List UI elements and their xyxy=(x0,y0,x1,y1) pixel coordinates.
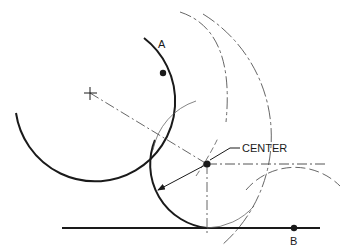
center-dot xyxy=(203,160,210,167)
tangent-construction-diagram: A B CENTER xyxy=(0,0,349,251)
construction-arc-upper xyxy=(180,12,227,122)
construction-arc-right xyxy=(246,167,340,190)
plus-marker-icon xyxy=(84,87,97,100)
point-b-dot xyxy=(291,225,297,231)
radius-arrow xyxy=(158,164,207,190)
construction-arc-large xyxy=(203,14,271,245)
center-leader-line xyxy=(210,148,240,160)
label-a: A xyxy=(158,38,166,50)
label-center: CENTER xyxy=(242,142,287,154)
label-b: B xyxy=(290,235,297,247)
point-a-dot xyxy=(160,70,166,76)
tangent-arc xyxy=(150,140,207,228)
